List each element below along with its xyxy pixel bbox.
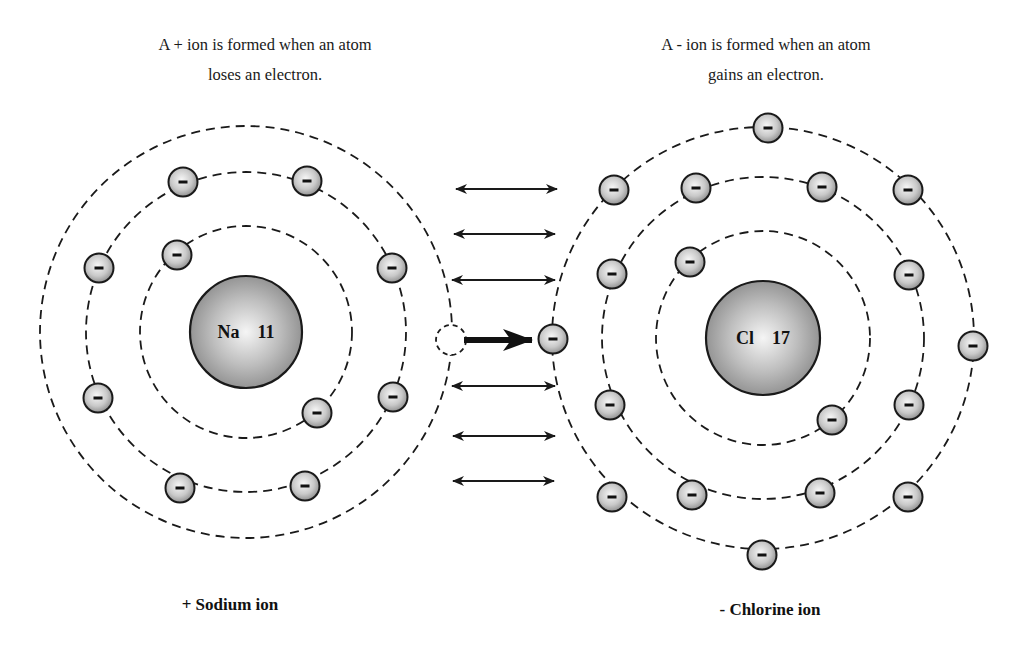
chlorine-nucleus-label: Cl 17 — [736, 328, 790, 348]
electron-icon — [291, 472, 320, 501]
electron-icon — [806, 479, 835, 508]
electron-icon — [84, 384, 113, 413]
sodium-atom: Na 11 — [40, 126, 466, 538]
electron-icon — [748, 541, 777, 570]
lost-electron-placeholder — [436, 325, 466, 355]
ionic-bond-diagram: Na 11 Cl 17 — [0, 0, 1017, 648]
electron-icon — [895, 261, 924, 290]
sodium-ion-label: + Sodium ion — [120, 595, 340, 615]
electron-icon — [754, 114, 783, 143]
electron-icon — [293, 167, 322, 196]
sodium-nucleus-label: Na 11 — [217, 322, 274, 342]
electron-icon — [379, 383, 408, 412]
electron-icon — [166, 474, 195, 503]
electron-icon — [959, 332, 988, 361]
electron-icon — [818, 406, 847, 435]
electron-icon — [676, 248, 705, 277]
chlorine-atom: Cl 17 — [539, 114, 988, 570]
electron-icon — [678, 481, 707, 510]
electron-icon — [163, 241, 192, 270]
electron-icon — [894, 176, 923, 205]
electron-icon — [682, 174, 711, 203]
chlorine-ion-label: - Chlorine ion — [660, 600, 880, 620]
electron-icon — [85, 254, 114, 283]
electron-icon — [303, 399, 332, 428]
electron-icon — [600, 176, 629, 205]
electron-icon — [895, 391, 924, 420]
electron-icon — [808, 173, 837, 202]
electron-icon — [539, 325, 568, 354]
electron-icon — [378, 254, 407, 283]
electron-icon — [169, 168, 198, 197]
electron-icon — [598, 260, 627, 289]
electron-icon — [894, 483, 923, 512]
electron-icon — [598, 483, 627, 512]
electron-icon — [596, 391, 625, 420]
